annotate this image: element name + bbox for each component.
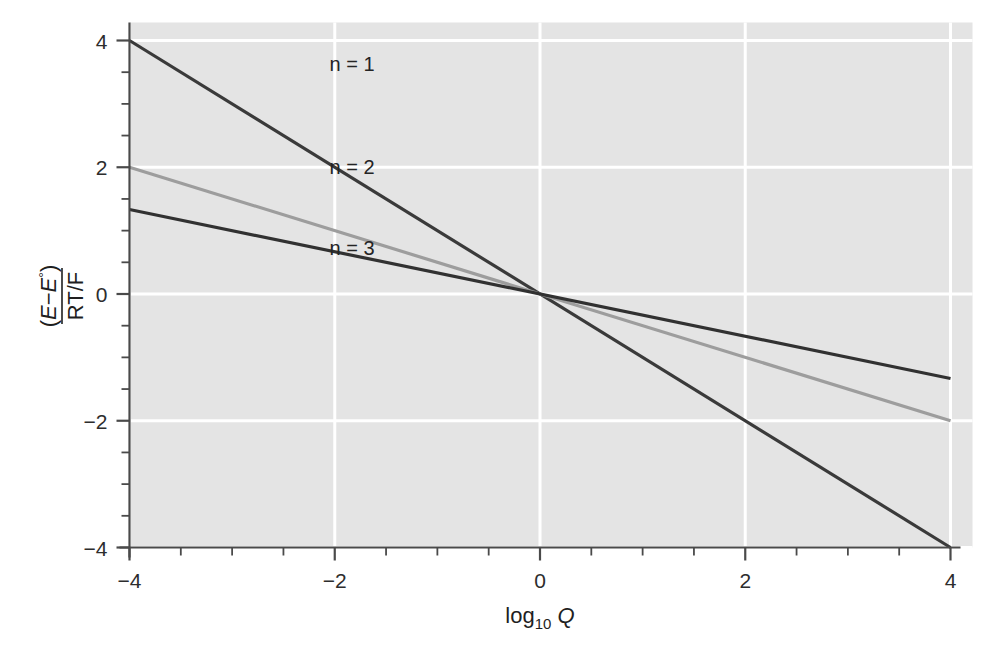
xaxis-variable: Q (558, 603, 575, 628)
plot-background (130, 23, 973, 548)
plot-area-panel (130, 23, 973, 548)
y-tick-label: 4 (96, 30, 108, 53)
figure-container: −4−2024−4−2024 n = 1n = 2n = 3 log10 Q (… (0, 0, 987, 655)
xaxis-log-base: log (505, 603, 534, 628)
y-tick-label: 2 (96, 156, 108, 179)
xaxis-log-subscript: 10 (535, 615, 552, 632)
x-tick-label: 4 (945, 569, 957, 592)
y-tick-label: 0 (96, 283, 108, 306)
x-tick-label: 2 (739, 569, 751, 592)
chart-canvas: −4−2024−4−2024 n = 1n = 2n = 3 log10 Q (… (0, 0, 987, 655)
y-axis-title: (E−E°) RT/F (36, 265, 88, 328)
yaxis-num-close: ) (36, 265, 61, 272)
yaxis-num-e2: E (36, 277, 61, 292)
y-tick-label: −2 (84, 410, 108, 433)
series-label-1: n = 1 (330, 53, 375, 75)
yaxis-denominator: RT/F (63, 272, 88, 320)
series-label-3: n = 3 (330, 237, 375, 259)
series-label-2: n = 2 (330, 156, 375, 178)
x-tick-label: 0 (534, 569, 546, 592)
yaxis-num-e1: E (36, 305, 61, 320)
y-tick-label: −4 (84, 537, 108, 560)
x-tick-label: −4 (118, 569, 142, 592)
yaxis-num-minus: − (36, 292, 61, 305)
x-tick-label: −2 (323, 569, 347, 592)
